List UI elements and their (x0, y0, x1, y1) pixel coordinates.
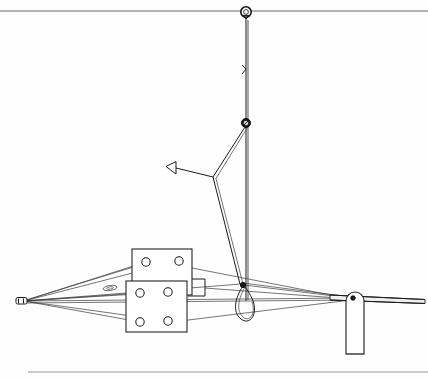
lower-mounting-plate (126, 281, 187, 332)
line-thimble-inner (106, 286, 113, 289)
bolt-lower-top-left (136, 289, 144, 297)
bolt-lower-bottom-right (164, 317, 172, 325)
cable-loop (235, 282, 254, 321)
bolt-upper-left (142, 258, 150, 266)
bolt-lower-bottom-left (136, 318, 144, 326)
cable-tick-icon (242, 65, 246, 74)
right-clevis-post (346, 292, 364, 354)
bolt-upper-right (175, 257, 183, 265)
right-bridle-lines (172, 268, 351, 322)
branch-node (242, 119, 251, 128)
bent-bridle-leg (213, 127, 248, 284)
bolt-lower-top-right (164, 288, 172, 296)
horizontal-spar-bar (330, 295, 425, 304)
technical-line-drawing (0, 0, 428, 379)
line-thimble-marker (103, 285, 118, 292)
post-pin-hole (351, 296, 356, 301)
top-eyelet-ring (241, 7, 251, 19)
direction-arrow (166, 162, 213, 178)
left-apex-fitting (16, 298, 27, 305)
drawing-canvas: Kite bridle and tow-rig line drawing mon… (0, 0, 428, 379)
